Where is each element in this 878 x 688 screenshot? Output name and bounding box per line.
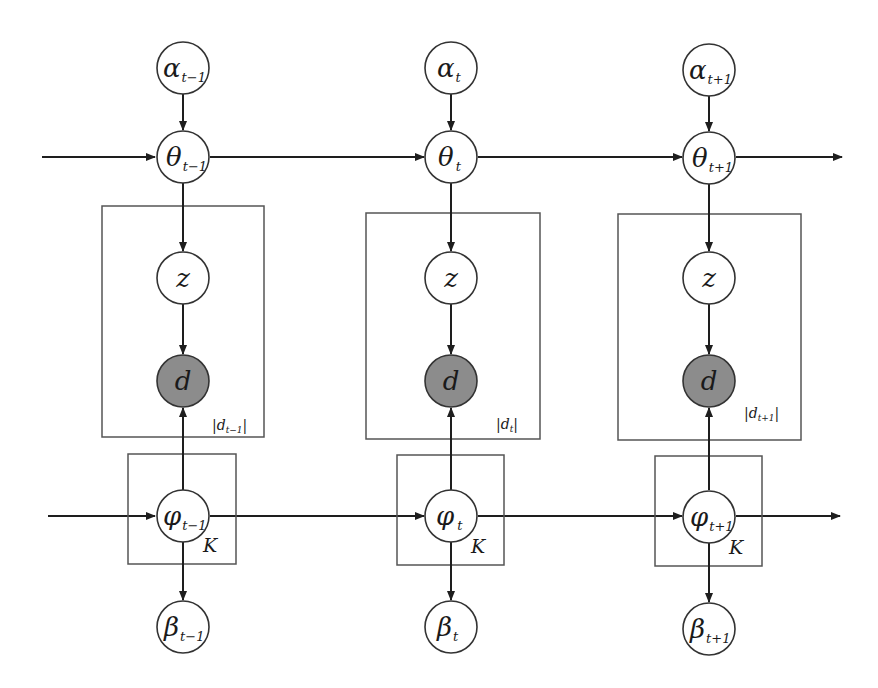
svg-text:d: d	[701, 366, 718, 396]
time-slice-t: αt θt z d |dt| φt K βt	[366, 42, 540, 653]
node-phi: φt−1	[157, 490, 209, 542]
node-beta: βt−1	[157, 601, 209, 653]
node-phi: φt	[425, 490, 477, 542]
node-z: z	[425, 252, 477, 304]
node-theta: θt+1	[683, 132, 735, 184]
node-d-observed: d	[683, 355, 735, 407]
svg-text:z: z	[443, 263, 458, 293]
topic-plate-label: K	[202, 534, 219, 556]
node-theta: θt	[425, 131, 477, 183]
node-d-observed: d	[157, 355, 209, 407]
node-beta: βt+1	[683, 603, 735, 655]
svg-text:z: z	[701, 263, 716, 293]
topic-plate-label: K	[728, 536, 745, 558]
node-d-observed: d	[425, 355, 477, 407]
svg-text:d: d	[443, 366, 460, 396]
node-alpha: αt+1	[683, 44, 735, 96]
document-plate-label: |dt−1|	[212, 417, 247, 435]
node-alpha: αt−1	[157, 42, 209, 94]
time-slice-t+1: αt+1 θt+1 z d |dt+1| φt+1 K βt+1	[618, 44, 801, 655]
svg-text:z: z	[175, 263, 190, 293]
svg-text:d: d	[175, 366, 192, 396]
node-z: z	[683, 252, 735, 304]
document-plate-label: |dt|	[496, 416, 518, 434]
document-plate-label: |dt+1|	[744, 405, 779, 423]
node-z: z	[157, 252, 209, 304]
node-alpha: αt	[425, 42, 477, 94]
dynamic-topic-model-diagram: αt−1 θt−1 z d |dt−1| φt−1 K βt−1	[0, 0, 878, 688]
topic-plate-label: K	[470, 535, 487, 557]
node-beta: βt	[425, 601, 477, 653]
node-phi: φt+1	[683, 491, 735, 543]
node-theta: θt−1	[157, 131, 209, 183]
time-slice-t-1: αt−1 θt−1 z d |dt−1| φt−1 K βt−1	[102, 42, 264, 653]
